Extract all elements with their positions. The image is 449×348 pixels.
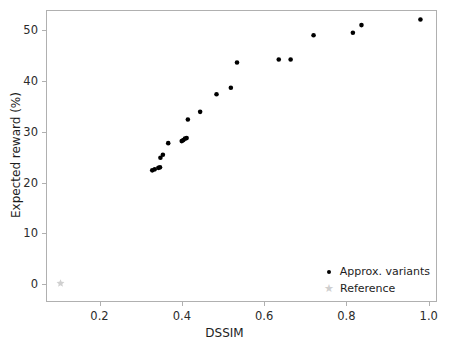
x-tick-label: 0.4 (173, 309, 191, 323)
data-point-approx-variant (235, 60, 240, 65)
x-tick-label: 0.6 (255, 309, 273, 323)
y-tick-mark (42, 284, 46, 285)
data-point-approx-variant (198, 110, 203, 115)
scatter-plot-figure: 0.20.40.60.81.0 01020304050 DSSIM Expect… (0, 0, 449, 348)
data-point-approx-variant (276, 57, 281, 62)
data-point-approx-variant (166, 141, 171, 146)
data-point-approx-variant (418, 17, 423, 22)
x-tick-label: 1.0 (420, 309, 438, 323)
legend-star-marker-icon: ★ (318, 283, 340, 294)
y-tick-mark (42, 233, 46, 234)
y-axis-title: Expected reward (%) (9, 65, 23, 245)
legend-label-reference: Reference (340, 282, 395, 295)
y-tick-mark (42, 30, 46, 31)
y-tick-mark (42, 183, 46, 184)
data-point-approx-variant (184, 136, 189, 141)
x-tick-mark (264, 302, 265, 306)
legend-circle-marker-icon (318, 270, 340, 274)
data-point-approx-variant (288, 57, 293, 62)
x-tick-label: 0.8 (337, 309, 355, 323)
plot-area (46, 10, 437, 302)
data-point-reference (57, 279, 65, 287)
x-tick-mark (182, 302, 183, 306)
x-tick-mark (429, 302, 430, 306)
data-point-approx-variant (351, 30, 356, 35)
x-tick-label: 0.2 (90, 309, 108, 323)
data-point-approx-variant (158, 165, 163, 170)
data-point-approx-variant (311, 33, 316, 38)
data-point-approx-variant (229, 85, 234, 90)
x-tick-mark (100, 302, 101, 306)
legend-item-reference: ★ Reference (318, 280, 430, 297)
data-point-approx-variant (161, 152, 166, 157)
x-axis-title: DSSIM (0, 326, 449, 340)
y-tick-mark (42, 132, 46, 133)
y-tick-label: 50 (6, 23, 38, 37)
x-tick-mark (346, 302, 347, 306)
data-point-approx-variant (186, 117, 191, 122)
data-point-approx-variant (359, 23, 364, 28)
y-tick-mark (42, 81, 46, 82)
chart-legend: Approx. variants ★ Reference (318, 261, 430, 299)
legend-item-approx-variants: Approx. variants (318, 263, 430, 280)
data-points-layer (47, 11, 436, 301)
y-tick-label: 0 (6, 277, 38, 291)
data-point-approx-variant (214, 92, 219, 97)
legend-label-approx-variants: Approx. variants (340, 265, 430, 278)
